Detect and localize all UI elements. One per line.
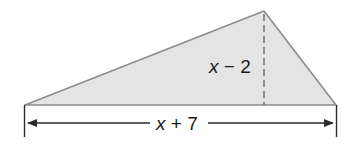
triangle-diagram: x − 2 x + 7 [0,0,343,159]
base-label-expression: + 7 [166,113,198,134]
base-label: x + 7 [155,113,198,134]
triangle-shape [25,11,336,105]
height-label-expression: − 2 [219,56,251,77]
height-label: x − 2 [208,56,251,77]
